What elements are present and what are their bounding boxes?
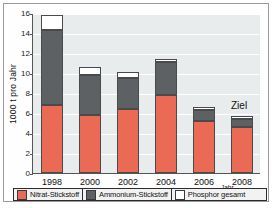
legend-item-label: Ammonium-Stickstoff — [99, 190, 168, 199]
y-axis-tick-label: 14 — [21, 30, 30, 38]
y-axis-title-text: 1000 t pro Jahr — [8, 64, 18, 124]
gridline — [33, 94, 260, 95]
y-axis-tick-mark — [30, 114, 33, 115]
bar-segment-ammonium[interactable] — [231, 119, 253, 128]
annotation-ziel: Ziel — [231, 100, 247, 111]
chart-figure: 1000 t pro Jahr 0246810121416 1998200020… — [0, 0, 272, 208]
bar-segment-nitrat[interactable] — [231, 127, 253, 173]
gridline — [33, 114, 260, 115]
bar-group[interactable]: 2006 — [193, 107, 215, 174]
y-axis-title: 1000 t pro Jahr — [6, 14, 20, 174]
y-axis-tick-label: 16 — [21, 10, 30, 18]
x-axis-tick-label: 2004 — [156, 177, 176, 187]
bar-segment-phosphor[interactable] — [41, 15, 63, 31]
bar-segment-phosphor[interactable] — [193, 107, 215, 111]
y-axis-tick-mark — [30, 54, 33, 55]
gridline — [33, 154, 260, 155]
legend-item[interactable]: Nitrat-Stickstoff — [14, 189, 82, 200]
y-axis-tick-mark — [30, 94, 33, 95]
plot-area-wrapper: 0246810121416 199820002002200420062008 J… — [32, 14, 260, 174]
bar-segment-phosphor[interactable] — [79, 67, 101, 75]
bar-segment-ammonium[interactable] — [79, 75, 101, 115]
gridline — [33, 14, 260, 15]
bar-segment-ammonium[interactable] — [41, 30, 63, 105]
legend-swatch-gray — [86, 190, 96, 200]
gridline — [33, 54, 260, 55]
bar-segment-nitrat[interactable] — [193, 121, 215, 174]
bar-segment-phosphor[interactable] — [117, 72, 139, 78]
bar-segment-nitrat[interactable] — [117, 109, 139, 174]
x-axis-tick-label: 2008 — [232, 177, 252, 187]
legend-swatch-white — [175, 190, 185, 200]
gridline — [33, 74, 260, 75]
bar-segment-nitrat[interactable] — [79, 115, 101, 174]
bar-group[interactable]: 2000 — [79, 67, 101, 173]
bar-segment-phosphor[interactable] — [231, 116, 253, 119]
gridline — [33, 134, 260, 135]
y-axis-tick-mark — [30, 154, 33, 155]
y-axis-tick-mark — [30, 74, 33, 75]
bar-segment-phosphor[interactable] — [155, 59, 177, 62]
bar-segment-ammonium[interactable] — [193, 110, 215, 121]
bar-group[interactable]: 2002 — [117, 72, 139, 173]
y-axis-tick-mark — [30, 14, 33, 15]
y-axis-tick-mark — [30, 134, 33, 135]
x-axis-tick-label: 2006 — [194, 177, 214, 187]
bar-group[interactable]: 2008 — [231, 116, 253, 173]
legend-item-label: Nitrat-Stickstoff — [30, 190, 79, 199]
legend-item[interactable]: Ammonium-Stickstoff — [82, 189, 171, 200]
y-axis-tick-mark — [30, 174, 33, 175]
figure-frame: 1000 t pro Jahr 0246810121416 1998200020… — [3, 3, 269, 202]
legend-item-label: Phosphor gesamt — [188, 190, 245, 199]
legend-swatch-red — [17, 190, 27, 200]
y-axis-tick-label: 12 — [21, 50, 30, 58]
x-axis-tick-label: 2000 — [80, 177, 100, 187]
bar-segment-ammonium[interactable] — [155, 62, 177, 95]
bar-segment-nitrat[interactable] — [155, 95, 177, 174]
bar-group[interactable]: 1998 — [41, 15, 63, 174]
plot-area: 0246810121416 199820002002200420062008 — [32, 14, 260, 174]
legend-item[interactable]: Phosphor gesamt — [171, 189, 248, 200]
y-axis-tick-label: 10 — [21, 70, 30, 78]
bar-segment-nitrat[interactable] — [41, 105, 63, 173]
bar-group[interactable]: 2004 — [155, 59, 177, 173]
gridline — [33, 34, 260, 35]
bar-segment-ammonium[interactable] — [117, 78, 139, 109]
x-axis-tick-label: 2002 — [118, 177, 138, 187]
y-axis-tick-mark — [30, 34, 33, 35]
x-axis-tick-label: 1998 — [42, 177, 62, 187]
chart-legend: Nitrat-StickstoffAmmonium-StickstoffPhos… — [13, 188, 267, 201]
